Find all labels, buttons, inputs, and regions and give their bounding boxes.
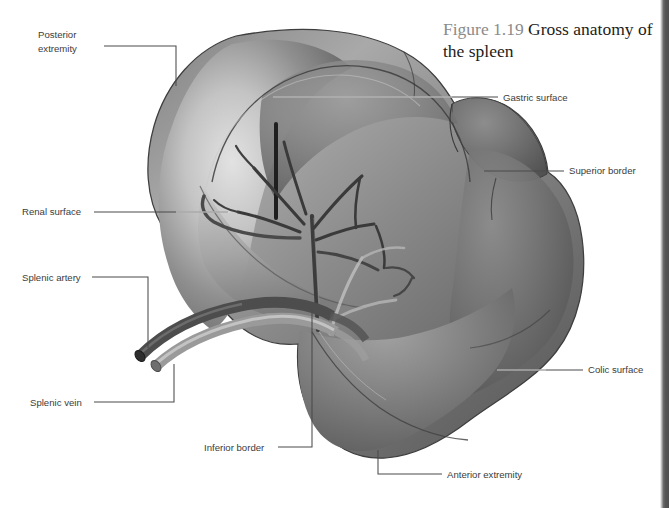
leader-splenic-vein xyxy=(94,364,174,402)
page-edge-strip xyxy=(660,0,669,508)
label-splenic-vein: Splenic vein xyxy=(30,396,82,410)
leader-splenic-artery xyxy=(92,277,148,348)
figure-number: Figure 1.19 xyxy=(443,19,524,39)
label-gastric-surface: Gastric surface xyxy=(503,91,568,105)
figure-title: Figure 1.19 Gross anatomy of the spleen xyxy=(443,18,658,63)
label-splenic-artery: Splenic artery xyxy=(22,271,81,285)
label-inferior-border: Inferior border xyxy=(204,441,264,455)
figure-container: Figure 1.19 Gross anatomy of the spleen … xyxy=(0,0,669,508)
label-superior-border: Superior border xyxy=(569,164,636,178)
label-colic-surface: Colic surface xyxy=(588,363,643,377)
leader-posterior-extremity xyxy=(104,46,176,86)
spleen-anatomy-illustration xyxy=(0,0,669,508)
label-anterior-extremity: Anterior extremity xyxy=(447,468,522,482)
label-renal-surface: Renal surface xyxy=(22,205,81,219)
label-posterior-extremity: Posterior extremity xyxy=(38,28,77,55)
